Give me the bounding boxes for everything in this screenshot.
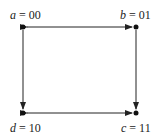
label-d: d = 10	[10, 121, 41, 135]
node-b	[134, 25, 139, 30]
label-c: c = 11	[121, 121, 151, 135]
label-a: a = 00	[10, 8, 41, 22]
label-b: b = 01	[120, 8, 151, 22]
node-a	[21, 25, 26, 30]
node-c	[134, 111, 139, 116]
node-d	[21, 111, 26, 116]
state-diagram: a = 00 b = 01 d = 10 c = 11	[0, 0, 158, 140]
